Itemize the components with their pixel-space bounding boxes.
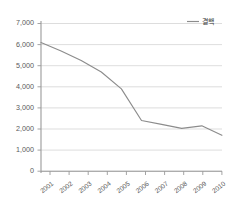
y-tick-label-2000: 2,000 <box>16 124 34 133</box>
x-tick-label-2005: 2005 <box>115 180 131 195</box>
y-tick-label-7000: 7,000 <box>16 18 34 27</box>
y-tick-label-6000: 6,000 <box>16 40 34 49</box>
series-group <box>41 42 222 135</box>
series-line-tuberculosis <box>41 42 222 135</box>
y-tick-label-1000: 1,000 <box>16 145 34 154</box>
grid-lines <box>41 24 222 172</box>
y-tick-label-3000: 3,000 <box>16 103 34 112</box>
legend: 결핵 <box>187 17 214 26</box>
line-chart-container: 7,000 6,000 5,000 4,000 3,000 2,000 1,00… <box>0 0 231 213</box>
y-tick-label-5000: 5,000 <box>16 61 34 70</box>
x-axis: 2001 2002 2003 2004 2005 2006 2007 2008 … <box>39 171 227 194</box>
y-axis: 7,000 6,000 5,000 4,000 3,000 2,000 1,00… <box>16 18 41 175</box>
x-tick-label-2006: 2006 <box>134 180 150 195</box>
x-tick-label-2003: 2003 <box>77 180 93 195</box>
x-tick-label-2010: 2010 <box>211 180 227 195</box>
x-tick-label-2008: 2008 <box>172 180 188 195</box>
y-tick-label-4000: 4,000 <box>16 82 34 91</box>
x-tick-label-2002: 2002 <box>58 180 74 195</box>
x-tick-label-2001: 2001 <box>39 180 55 195</box>
y-tick-label-0: 0 <box>30 166 34 175</box>
legend-label: 결핵 <box>202 17 214 26</box>
x-tick-label-2009: 2009 <box>192 180 208 195</box>
x-tick-label-2007: 2007 <box>153 180 169 195</box>
x-tick-label-2004: 2004 <box>96 180 112 195</box>
chart-canvas: 7,000 6,000 5,000 4,000 3,000 2,000 1,00… <box>0 0 231 213</box>
